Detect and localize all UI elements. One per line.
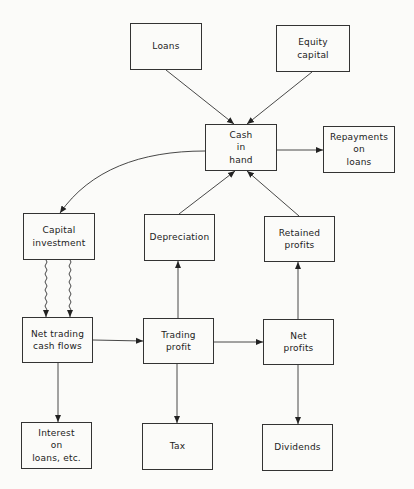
node-tax: Tax [142,423,213,470]
node-capital-investment: Capital investment [23,213,95,260]
node-label: Repayments on loans [330,131,388,169]
edge-retained-to-cash [247,171,299,216]
edge-equity-to-cash [247,72,312,124]
node-label: Cash in hand [229,129,252,167]
node-label: Capital investment [33,224,86,249]
node-repayments-on-loans: Repayments on loans [323,126,395,173]
node-label: Dividends [274,441,320,454]
node-label: Net trading cash flows [31,328,84,353]
node-label: Trading profit [161,329,195,354]
node-label: Interest on loans, etc. [32,427,81,465]
node-retained-profits: Retained profits [264,216,335,262]
node-trading-profit: Trading profit [143,318,214,364]
node-depreciation: Depreciation [144,214,215,261]
edge-depreciation-to-cash [179,171,235,214]
node-equity-capital: Equity capital [276,25,350,72]
edge-nettrading-to-trading [93,340,143,341]
node-label: Loans [152,40,179,53]
node-net-profits: Net profits [263,319,334,365]
node-label: Depreciation [150,231,210,244]
node-interest-on-loans: Interest on loans, etc. [21,422,92,469]
node-cash-in-hand: Cash in hand [205,124,277,171]
edge-capital-to-nettrading-wavy-2 [69,260,71,317]
edge-capital-to-nettrading-wavy-1 [45,260,47,317]
node-loans: Loans [130,23,202,70]
node-label: Tax [170,440,185,453]
node-label: Retained profits [279,227,321,252]
node-label: Net profits [283,330,313,355]
node-label: Equity capital [297,36,329,61]
edge-cash-to-capital-investment [60,151,205,213]
node-dividends: Dividends [262,424,333,471]
edge-loans-to-cash [166,70,234,124]
node-net-trading-cash-flows: Net trading cash flows [22,317,93,363]
